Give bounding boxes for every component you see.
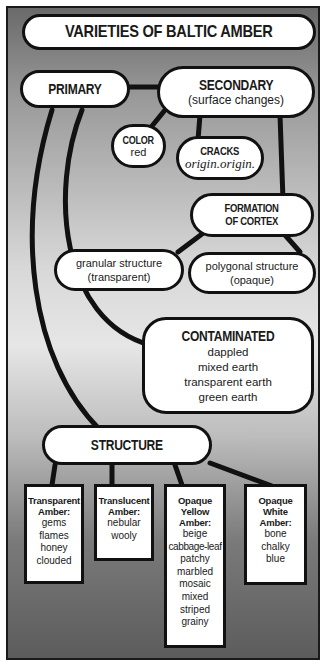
cortex-node: FORMATION OF CORTEX <box>190 193 314 237</box>
box-item: clouded <box>36 555 71 568</box>
cortex-label-line2: OF CORTEX <box>226 215 279 228</box>
polygonal-line1: polygonal structure <box>206 259 299 273</box>
box-item: mixed <box>182 591 209 604</box>
box-title: White <box>263 506 288 517</box>
secondary-node: SECONDARY (surface changes) <box>157 66 315 118</box>
granular-line2: (transparent) <box>88 270 151 284</box>
box-item: marbled <box>177 566 213 579</box>
diagram-title: VARIETIES OF BALTIC AMBER <box>65 22 273 42</box>
opaque-yellow-amber-box: Opaque Yellow Amber: beige cabbage-leaf … <box>164 484 226 648</box>
box-item: cabbage-leaf <box>168 541 221 554</box>
transparent-amber-box: Transparent Amber: gems flames honey clo… <box>24 484 84 584</box>
cracks-label: CRACKS <box>201 145 240 157</box>
translucent-amber-box: Translucent Amber: nebular wooly <box>94 484 154 561</box>
box-item: nebular <box>107 517 140 530</box>
box-title: Amber: <box>259 517 291 528</box>
contaminated-item: green earth <box>199 390 258 405</box>
structure-node: STRUCTURE <box>42 425 212 465</box>
box-title: Transparent <box>28 495 80 506</box>
box-item: striped <box>180 604 210 617</box>
granular-line1: granular structure <box>76 256 162 270</box>
box-item: gems <box>42 517 66 530</box>
polygonal-line2: (opaque) <box>230 273 274 287</box>
box-item: beige <box>183 528 207 541</box>
color-label: COLOR <box>123 134 154 146</box>
title-node: VARIETIES OF BALTIC AMBER <box>22 14 316 50</box>
secondary-sublabel: (surface changes) <box>188 93 284 107</box>
cracks-sublabel: origin.origin. <box>185 157 255 171</box>
box-title: Opaque <box>258 495 292 506</box>
box-title: Translucent <box>98 495 149 506</box>
cortex-label-line1: FORMATION <box>225 202 279 215</box>
box-title: Amber: <box>108 506 140 517</box>
box-item: flames <box>39 530 68 543</box>
box-item: chalky <box>261 541 289 554</box>
color-node: COLOR red <box>111 124 166 168</box>
box-item: mosaic <box>179 578 211 591</box>
polygonal-structure-node: polygonal structure (opaque) <box>188 252 316 294</box>
granular-structure-node: granular structure (transparent) <box>54 249 184 291</box>
box-item: wooly <box>111 530 137 543</box>
box-title: Amber: <box>38 506 70 517</box>
contaminated-item: mixed earth <box>198 360 258 375</box>
contaminated-item: dappled <box>208 345 249 360</box>
box-item: blue <box>266 553 285 566</box>
box-item: grainy <box>181 616 208 629</box>
contaminated-label: CONTAMINATED <box>182 327 275 345</box>
box-title: Amber: <box>179 517 211 528</box>
opaque-white-amber-box: Opaque White Amber: bone chalky blue <box>244 484 307 585</box>
contaminated-item: transparent earth <box>184 375 272 390</box>
structure-label: STRUCTURE <box>91 437 163 453</box>
cracks-node: CRACKS origin.origin. <box>176 136 264 180</box>
color-sublabel: red <box>131 146 147 159</box>
box-item: patchy <box>180 553 209 566</box>
primary-node: PRIMARY <box>20 70 130 108</box>
secondary-label: SECONDARY <box>199 77 273 93</box>
primary-label: PRIMARY <box>48 81 101 97</box>
contaminated-node: CONTAMINATED dappled mixed earth transpa… <box>142 317 314 414</box>
box-title: Opaque <box>178 495 212 506</box>
box-item: honey <box>40 542 67 555</box>
box-title: Yellow <box>181 506 209 517</box>
box-item: bone <box>264 528 286 541</box>
